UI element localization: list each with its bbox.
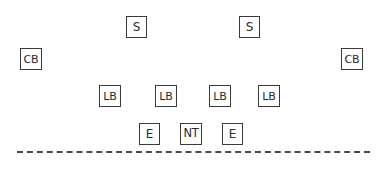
- player-label: LB: [213, 90, 226, 101]
- player-label: CB: [345, 53, 360, 64]
- player-label: LB: [262, 90, 275, 101]
- player-box-cornerback-right[interactable]: CB: [341, 48, 363, 70]
- player-box-defensive-end-right[interactable]: E: [222, 123, 243, 145]
- player-box-safety-left[interactable]: S: [126, 16, 147, 38]
- player-box-linebacker-1[interactable]: LB: [99, 85, 121, 107]
- player-label: CB: [24, 53, 39, 64]
- player-box-safety-right[interactable]: S: [239, 16, 260, 38]
- player-box-cornerback-left[interactable]: CB: [20, 48, 42, 70]
- player-label: E: [146, 128, 153, 140]
- player-box-nose-tackle[interactable]: NT: [180, 123, 202, 145]
- player-box-linebacker-2[interactable]: LB: [155, 85, 177, 107]
- line-of-scrimmage: [17, 151, 370, 153]
- player-box-linebacker-3[interactable]: LB: [209, 85, 231, 107]
- player-label: S: [246, 21, 253, 33]
- player-label: LB: [159, 90, 172, 101]
- player-label: E: [229, 128, 236, 140]
- player-label: NT: [183, 128, 198, 140]
- player-box-linebacker-4[interactable]: LB: [258, 85, 280, 107]
- player-label: LB: [103, 90, 116, 101]
- formation-diagram: SSCBCBLBLBLBLBENTE: [0, 0, 386, 170]
- player-box-defensive-end-left[interactable]: E: [139, 123, 160, 145]
- player-label: S: [133, 21, 140, 33]
